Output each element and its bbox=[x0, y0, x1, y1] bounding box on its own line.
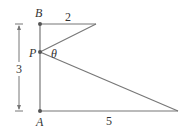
segment-p-top bbox=[40, 24, 96, 52]
label-p: P bbox=[28, 46, 37, 60]
label-length-top: 2 bbox=[65, 10, 71, 24]
arrow-down-icon bbox=[17, 105, 21, 110]
point-p bbox=[38, 50, 42, 54]
point-a bbox=[38, 109, 42, 113]
segment-p-bottom bbox=[40, 52, 178, 111]
label-b: B bbox=[35, 6, 43, 20]
label-length-vertical: 3 bbox=[16, 62, 22, 76]
point-b bbox=[38, 22, 42, 26]
geometry-diagram: B P A θ 2 5 3 bbox=[0, 0, 187, 129]
label-length-bottom: 5 bbox=[106, 114, 112, 128]
label-a: A bbox=[35, 115, 44, 129]
label-theta: θ bbox=[51, 47, 57, 61]
arrow-up-icon bbox=[17, 25, 21, 30]
